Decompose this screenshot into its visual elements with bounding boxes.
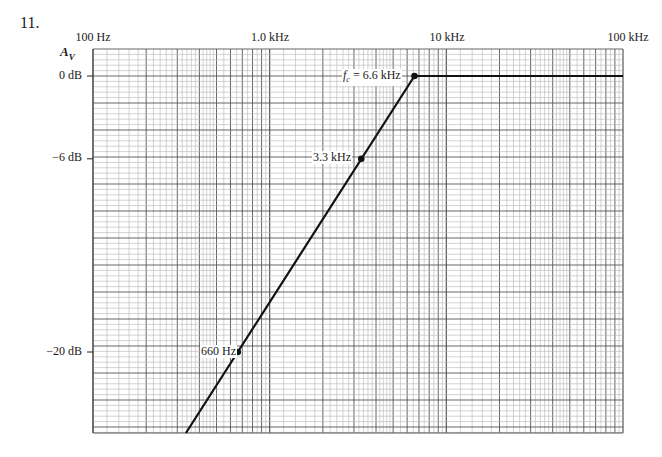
data-point-marker bbox=[411, 73, 418, 80]
annotation-3k3hz: 3.3 kHz bbox=[312, 151, 352, 164]
data-point-marker bbox=[358, 156, 365, 163]
annotation-fc: fc = 6.6 kHz bbox=[342, 69, 402, 86]
bode-plot bbox=[0, 0, 662, 457]
annotation-660hz: 660 Hz bbox=[200, 345, 237, 358]
